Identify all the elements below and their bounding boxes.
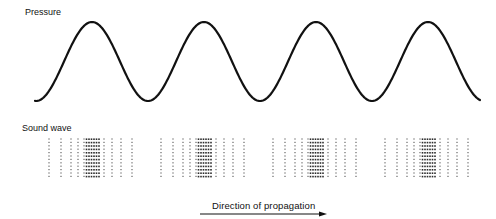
propagation-arrow-icon: [200, 212, 327, 217]
air-particle-dots: [48, 138, 468, 177]
sound-wave-diagram: [0, 0, 496, 219]
pressure-sine-curve: [35, 22, 480, 101]
